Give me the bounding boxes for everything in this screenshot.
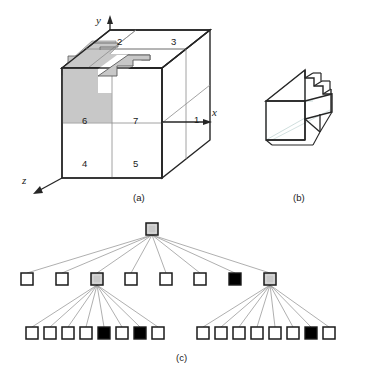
octree-node-l2-left-6[interactable]: [134, 327, 146, 339]
octree-edge-root-7: [152, 235, 270, 273]
octree-edge-l1-2-1: [50, 285, 97, 327]
octant-label-1: 1: [194, 114, 199, 125]
octant-label-6: 6: [82, 115, 87, 126]
z-axis-label: z: [21, 174, 27, 186]
x-axis-label: x: [211, 106, 217, 118]
octree-edge-l1-7-3: [257, 285, 270, 327]
octant-label-2: 2: [117, 36, 122, 47]
caption-a: (a): [133, 192, 145, 203]
octree-edge-l1-2-7: [97, 285, 158, 327]
octree-node-l2-left-1[interactable]: [44, 327, 56, 339]
octree-edge-l1-2-0: [32, 285, 97, 327]
octree-node-root[interactable]: [146, 223, 158, 235]
panel-a: y x z 2 3 1 6: [21, 14, 217, 203]
y-axis-label: y: [95, 14, 101, 26]
octree-edge-l1-7-4: [270, 285, 275, 327]
tree-nodes: [21, 223, 335, 339]
panel-b: (b): [266, 70, 332, 203]
octant-label-5: 5: [133, 158, 138, 169]
figure-container: y x z 2 3 1 6: [0, 0, 370, 384]
octree-edge-l1-2-2: [68, 285, 97, 327]
cube-right-face: [162, 30, 210, 178]
y-axis: y: [95, 14, 113, 30]
octree-node-l2-right-5[interactable]: [287, 327, 299, 339]
x-axis: x: [162, 106, 217, 125]
octree-edge-l1-7-1: [221, 285, 270, 327]
octree-edge-l1-7-6: [270, 285, 311, 327]
octree-figure: y x z 2 3 1 6: [0, 0, 370, 384]
octant-label-3: 3: [171, 36, 176, 47]
octree-node-l2-right-7[interactable]: [323, 327, 335, 339]
octree-edge-l1-7-0: [203, 285, 270, 327]
octree-edge-root-2: [97, 235, 152, 273]
octree-node-l1-3[interactable]: [125, 273, 137, 285]
octree-node-l1-1[interactable]: [56, 273, 68, 285]
octree-edge-l1-7-7: [270, 285, 329, 327]
octree-edge-root-1: [62, 235, 152, 273]
octree-node-l1-0[interactable]: [21, 273, 33, 285]
octree-node-l2-right-2[interactable]: [233, 327, 245, 339]
octree-node-l1-4[interactable]: [160, 273, 172, 285]
octree-edge-l1-7-5: [270, 285, 293, 327]
octree-node-l1-2[interactable]: [91, 273, 103, 285]
octant-label-4: 4: [82, 158, 87, 169]
octree-edge-root-6: [152, 235, 235, 273]
octree-node-l1-6[interactable]: [229, 273, 241, 285]
octree-node-l2-right-6[interactable]: [305, 327, 317, 339]
octree-node-l2-left-3[interactable]: [80, 327, 92, 339]
octree-node-l2-left-0[interactable]: [26, 327, 38, 339]
panel-c: (c): [21, 223, 335, 363]
caption-b: (b): [293, 192, 305, 203]
octree-node-l2-left-2[interactable]: [62, 327, 74, 339]
octree-edge-root-0: [27, 235, 152, 273]
panel-b-solid: [266, 70, 332, 145]
octree-node-l1-7[interactable]: [264, 273, 276, 285]
octant-label-7: 7: [133, 115, 138, 126]
tree-edges-level-2: [32, 285, 329, 327]
octree-node-l2-right-3[interactable]: [251, 327, 263, 339]
octree-node-l2-right-4[interactable]: [269, 327, 281, 339]
octree-edge-l1-7-2: [239, 285, 270, 327]
z-axis: z: [21, 174, 62, 194]
tree-edges-level-1: [27, 235, 270, 273]
octree-node-l1-5[interactable]: [194, 273, 206, 285]
caption-c: (c): [176, 352, 187, 363]
octree-node-l2-left-7[interactable]: [152, 327, 164, 339]
octree-node-l2-right-0[interactable]: [197, 327, 209, 339]
octree-node-l2-right-1[interactable]: [215, 327, 227, 339]
octree-node-l2-left-4[interactable]: [98, 327, 110, 339]
octree-node-l2-left-5[interactable]: [116, 327, 128, 339]
